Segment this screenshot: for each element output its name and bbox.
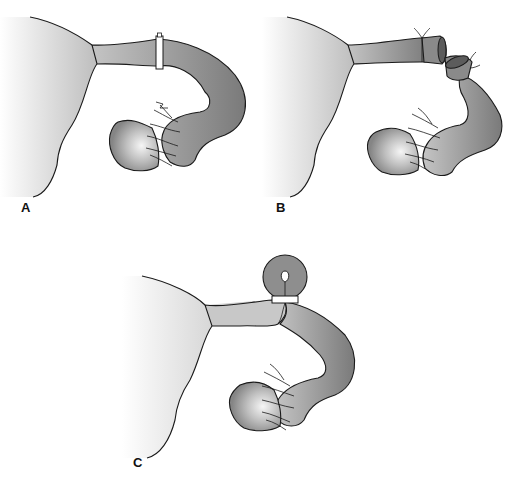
ovary-b <box>368 128 419 174</box>
proximal-tube-stump-b <box>348 38 430 64</box>
occlusion-ring-c <box>272 296 298 303</box>
diagram-canvas: A B <box>0 0 527 487</box>
occlusion-ring-a <box>156 36 163 69</box>
panel-label-c: C <box>133 455 143 470</box>
panel-a: A <box>0 17 245 215</box>
knuckle-lumen-c <box>281 271 289 282</box>
distal-tube-b <box>423 75 502 175</box>
panel-label-a: A <box>21 200 31 215</box>
panel-b: B <box>262 17 502 215</box>
panel-label-b: B <box>276 200 285 215</box>
uterus-a <box>0 17 105 197</box>
ovary-c <box>230 382 281 431</box>
ovary-a <box>110 120 159 170</box>
panel-c: C <box>122 255 355 470</box>
distal-tube-c <box>275 302 354 426</box>
proximal-tube-c <box>205 300 286 326</box>
